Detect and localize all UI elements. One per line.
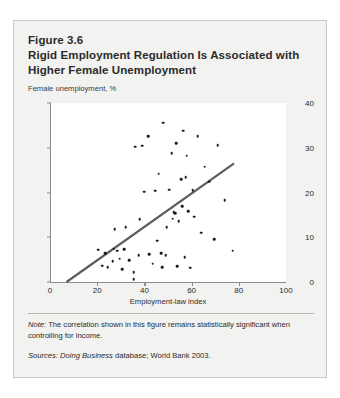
- data-point: [216, 144, 219, 147]
- data-point: [183, 256, 186, 259]
- data-point: [166, 226, 169, 229]
- data-point: [191, 189, 194, 192]
- data-point: [128, 259, 131, 262]
- x-tick-mark: [192, 282, 193, 286]
- divider: [28, 313, 314, 314]
- data-point: [176, 265, 179, 268]
- data-point: [97, 248, 100, 251]
- data-point: [107, 266, 110, 269]
- data-point: [170, 152, 173, 155]
- data-point: [182, 129, 185, 132]
- data-point: [203, 165, 206, 168]
- data-point: [148, 253, 151, 256]
- x-tick-label: 60: [187, 286, 196, 295]
- x-tick-label: 0: [48, 286, 52, 295]
- note-label: Note:: [28, 320, 46, 329]
- data-point: [118, 257, 121, 260]
- data-point: [223, 199, 226, 202]
- data-point: [181, 205, 184, 208]
- data-point: [116, 249, 119, 252]
- y-axis-title: Female unemployment, %: [28, 84, 314, 94]
- y-tick-label: 0: [295, 278, 314, 287]
- scatter-chart: 010203040 020406080100 Employment-law in…: [28, 97, 314, 309]
- x-axis-line: [50, 282, 286, 283]
- data-point: [187, 210, 190, 213]
- data-point: [114, 228, 117, 231]
- figure-title: Rigid Employment Regulation Is Associate…: [28, 48, 314, 77]
- x-tick-label: 20: [93, 286, 102, 295]
- y-tick-label: 20: [295, 188, 314, 197]
- data-point: [134, 146, 137, 149]
- data-point: [157, 172, 160, 175]
- data-point: [186, 155, 189, 158]
- data-point: [147, 135, 150, 138]
- data-point: [175, 142, 178, 145]
- data-point: [137, 254, 140, 257]
- data-point: [184, 176, 187, 179]
- x-tick-mark: [144, 282, 145, 286]
- sources-label: Sources:: [28, 351, 58, 360]
- data-point: [141, 144, 144, 147]
- data-point: [160, 252, 163, 255]
- data-point: [193, 215, 196, 218]
- data-point: [151, 262, 154, 265]
- x-tick-mark: [239, 282, 240, 286]
- figure-card: Figure 3.6 Rigid Employment Regulation I…: [13, 20, 327, 378]
- data-point: [208, 180, 211, 183]
- data-point: [156, 240, 159, 243]
- data-point: [164, 254, 167, 257]
- note-text: The correlation shown in this figure rem…: [28, 320, 290, 340]
- data-point: [143, 190, 146, 193]
- data-point: [112, 248, 115, 251]
- y-tick-label: 40: [295, 99, 314, 108]
- y-tick-label: 10: [295, 233, 314, 242]
- sources-italic-title: Doing Business: [60, 351, 113, 360]
- data-point: [138, 218, 141, 221]
- data-point: [123, 248, 126, 251]
- y-tick-label: 30: [295, 143, 314, 152]
- data-point: [177, 220, 180, 223]
- data-point: [104, 252, 107, 255]
- x-tick-label: 100: [279, 286, 292, 295]
- figure-sources: Sources: Doing Business database; World …: [28, 351, 314, 362]
- figure-note: Note: The correlation shown in this figu…: [28, 320, 314, 341]
- data-point: [189, 266, 192, 269]
- sources-text: database; World Bank 2003.: [115, 351, 211, 360]
- data-point: [124, 226, 127, 229]
- data-point: [132, 278, 135, 281]
- data-point: [196, 135, 199, 138]
- data-point: [101, 265, 104, 268]
- data-point: [232, 249, 235, 252]
- figure-number: Figure 3.6: [28, 33, 314, 47]
- trend-line: [50, 103, 286, 282]
- data-point: [162, 121, 165, 124]
- data-point: [132, 271, 135, 274]
- data-point: [168, 189, 171, 192]
- data-point: [154, 189, 157, 192]
- data-point: [200, 231, 203, 234]
- x-tick-label: 40: [140, 286, 149, 295]
- data-point: [161, 266, 164, 269]
- data-point: [171, 218, 174, 221]
- figure-content: Figure 3.6 Rigid Employment Regulation I…: [28, 33, 314, 367]
- x-tick-mark: [97, 282, 98, 286]
- data-point: [213, 238, 216, 241]
- data-point: [121, 268, 124, 271]
- x-tick-label: 80: [234, 286, 243, 295]
- data-point: [180, 178, 183, 181]
- data-point: [111, 260, 114, 263]
- x-axis-title: Employment-law index: [50, 297, 286, 306]
- data-point: [174, 212, 177, 215]
